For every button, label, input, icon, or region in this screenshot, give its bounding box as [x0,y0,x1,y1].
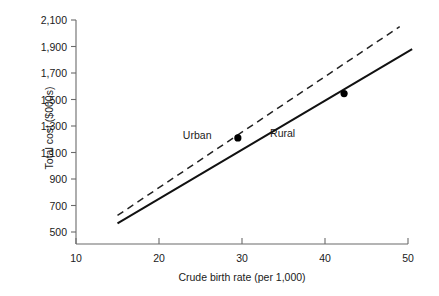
x-tick-label: 40 [319,253,331,264]
series-line-rural [118,49,413,223]
y-tick-label: 900 [49,174,67,185]
series-label-rural: Rural [270,127,295,138]
y-tick-label: 700 [49,200,67,211]
x-tick-label: 30 [236,253,248,264]
data-point-urban [234,134,241,141]
y-tick-label: 1,700 [41,68,67,79]
tick-marks [71,20,408,244]
data-point-rural [340,90,347,97]
y-tick-label: 1,900 [41,41,67,52]
series-lines [118,27,413,224]
x-tick-label: 50 [402,253,414,264]
y-tick-label: 2,100 [41,15,67,26]
x-axis-title: Crude birth rate (per 1,000) [178,272,305,283]
series-line-urban [118,27,400,216]
x-tick-label: 20 [153,253,165,264]
x-tick-label: 10 [70,253,82,264]
y-tick-label: 500 [49,227,67,238]
chart-figure: 5007009001,1001,3001,5001,7001,9002,1001… [0,0,439,296]
series-label-urban: Urban [183,130,212,141]
y-axis-title: Total cost ($000s) [44,87,55,170]
